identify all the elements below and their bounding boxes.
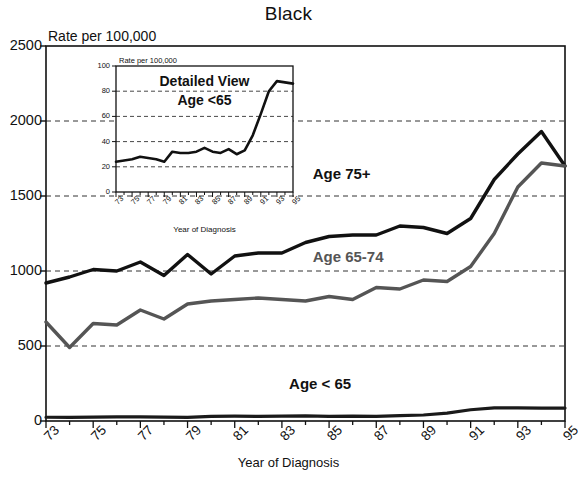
inset-y-tick-label: 20 (92, 162, 110, 171)
inset-y-axis-label: Rate per 100,000 (119, 56, 177, 65)
inset-title-line-2: Age <65 (116, 92, 293, 108)
inset-y-tick-label: 80 (92, 86, 110, 95)
inset-y-tick-label: 60 (92, 111, 110, 120)
inset-y-tick-label: 40 (92, 137, 110, 146)
inset-y-tick-label: 0 (92, 187, 110, 196)
series-label-1: Age 75+ (313, 165, 371, 182)
series-line-3 (46, 408, 565, 418)
series-label-3: Age < 65 (289, 375, 351, 392)
inset-y-tick-label: 100 (92, 61, 110, 70)
inset-x-axis-label: Year of Diagnosis (116, 225, 293, 234)
inset-title-line-1: Detailed View (116, 73, 293, 89)
series-label-2: Age 65-74 (313, 248, 384, 265)
